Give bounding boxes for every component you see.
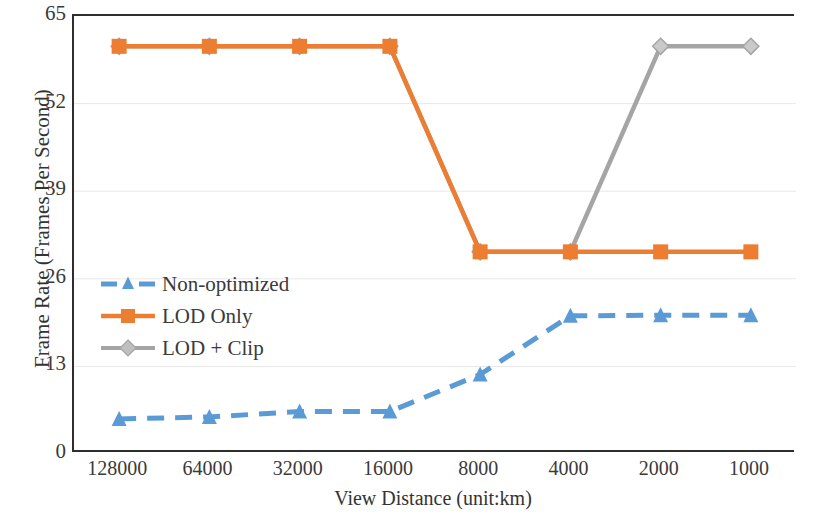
x-tick-label: 16000 [363,458,413,478]
y-tick-label: 65 [10,3,66,24]
data-point [743,38,759,54]
data-point [112,39,127,54]
y-tick-label: 0 [10,441,66,462]
data-point [743,244,758,259]
y-tick-label: 26 [10,266,66,287]
legend-key-non-optimized-icon [100,273,156,295]
legend-item-lod-clip[interactable]: LOD + Clip [100,332,360,364]
y-tick-label: 39 [10,178,66,199]
legend-key-lod-only-icon [100,305,156,327]
y-tick-label: 52 [10,91,66,112]
y-axis-tick-labels: 65523926130 [0,0,66,470]
x-tick-label: 4000 [548,458,588,478]
plot-svg [74,16,796,454]
frame-rate-line-chart: Frame Rate (Frames Per Second) 655239261… [0,0,813,520]
x-tick-label: 128000 [87,458,147,478]
x-tick-label: 1000 [729,458,769,478]
x-axis-title: View Distance (unit:km) [72,487,794,510]
x-tick-label: 2000 [639,458,679,478]
legend-key-lod-clip-icon [100,337,156,359]
data-point [653,244,668,259]
x-tick-label: 64000 [182,458,232,478]
series-line-lod-only [119,46,751,252]
data-point [473,244,488,259]
legend-label-non-optimized: Non-optimized [162,272,289,297]
x-axis-tick-labels: 1280006400032000160008000400020001000 [72,458,794,486]
legend: Non-optimized LOD Only LOD + Clip [100,268,360,364]
data-point [292,39,307,54]
plot-area [72,14,794,452]
data-point [202,39,217,54]
legend-label-lod-clip: LOD + Clip [162,336,264,361]
data-point [382,39,397,54]
legend-item-non-optimized[interactable]: Non-optimized [100,268,360,300]
x-tick-label: 32000 [273,458,323,478]
data-point [563,244,578,259]
legend-label-lod-only: LOD Only [162,304,252,329]
legend-item-lod-only[interactable]: LOD Only [100,300,360,332]
y-tick-label: 13 [10,353,66,374]
x-tick-label: 8000 [458,458,498,478]
data-point [653,38,669,54]
